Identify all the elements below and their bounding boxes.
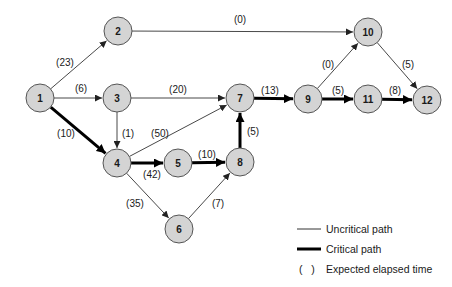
edge-label-11-12: (8) xyxy=(389,85,401,96)
node-label: 6 xyxy=(176,224,182,235)
edge-2-10-uncritical xyxy=(132,31,353,32)
edge-label-10-12: (5) xyxy=(402,59,414,70)
edge-label-1-2: (23) xyxy=(56,57,74,68)
edge-4-6-uncritical xyxy=(127,173,169,218)
node-label: 8 xyxy=(237,157,243,168)
legend: Uncritical path Critical path ( ) Expect… xyxy=(297,223,432,275)
pert-diagram: (23)(6)(10)(0)(20)(1)(50)(42)(35)(10)(7)… xyxy=(0,0,452,287)
edge-label-2-10: (0) xyxy=(234,14,246,25)
legend-item-uncritical: Uncritical path xyxy=(297,223,393,235)
node-3: 3 xyxy=(103,84,131,112)
edge-label-9-10: (0) xyxy=(322,59,334,70)
node-label: 11 xyxy=(363,94,374,105)
edge-label-3-4: (1) xyxy=(122,128,134,139)
node-label: 7 xyxy=(237,93,243,104)
node-6: 6 xyxy=(165,215,193,243)
parentheses-icon: ( ) xyxy=(299,263,315,275)
node-label: 1 xyxy=(37,93,43,104)
node-label: 2 xyxy=(115,26,121,37)
legend-item-elapsed-time: ( ) Expected elapsed time xyxy=(299,263,432,275)
edge-label-3-7: (20) xyxy=(169,84,187,95)
node-label: 12 xyxy=(421,95,433,106)
edge-label-4-6: (35) xyxy=(126,198,144,209)
node-8: 8 xyxy=(226,148,254,176)
node-7: 7 xyxy=(226,84,254,112)
node-11: 11 xyxy=(354,85,382,113)
node-2: 2 xyxy=(104,17,132,45)
edge-label-4-7: (50) xyxy=(151,128,169,139)
edge-11-12-critical xyxy=(382,99,412,100)
legend-item-critical: Critical path xyxy=(297,243,382,255)
node-5: 5 xyxy=(164,149,192,177)
edge-label-8-7: (5) xyxy=(247,126,259,137)
node-label: 5 xyxy=(175,158,181,169)
node-label: 3 xyxy=(114,93,120,104)
edge-label-5-8: (10) xyxy=(198,149,216,160)
edge-label-6-8: (7) xyxy=(212,198,224,209)
node-12: 12 xyxy=(413,86,441,114)
nodes-layer: 123456789101112 xyxy=(26,17,441,243)
node-label: 4 xyxy=(114,158,120,169)
edges-layer xyxy=(51,31,418,219)
legend-label-critical: Critical path xyxy=(326,243,382,255)
node-4: 4 xyxy=(103,149,131,177)
legend-label-uncritical: Uncritical path xyxy=(326,223,393,235)
edge-5-8-critical xyxy=(192,162,225,163)
edge-label-9-11: (5) xyxy=(332,85,344,96)
edge-7-9-critical xyxy=(254,98,293,99)
node-label: 9 xyxy=(305,94,311,105)
edge-label-1-4: (10) xyxy=(57,128,75,139)
edge-label-4-5: (42) xyxy=(143,169,161,180)
edge-label-1-3: (6) xyxy=(75,83,87,94)
node-1: 1 xyxy=(26,84,54,112)
legend-label-elapsed-time: Expected elapsed time xyxy=(326,263,432,275)
node-label: 10 xyxy=(362,27,374,38)
edge-label-7-9: (13) xyxy=(261,85,279,96)
edge-6-8-uncritical xyxy=(188,173,229,219)
node-9: 9 xyxy=(294,85,322,113)
node-10: 10 xyxy=(354,18,382,46)
